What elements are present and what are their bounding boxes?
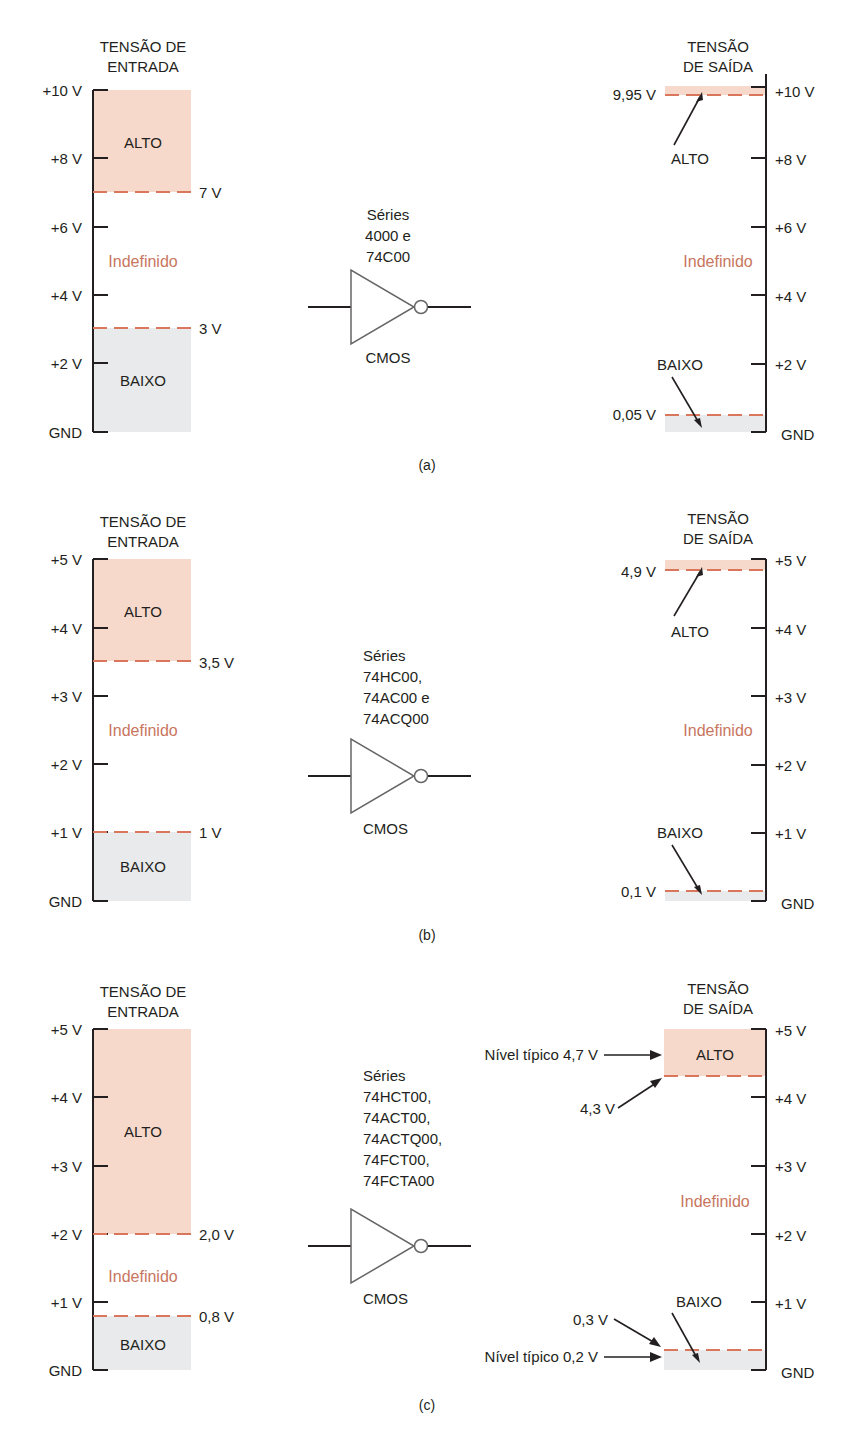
tick-label: +2 V: [51, 1226, 82, 1243]
tick-label: +1 V: [51, 1294, 82, 1311]
cmos-inverter: Séries 74HC00, 74AC00 e 74ACQ00 CMOS: [308, 647, 471, 837]
arrow-icon: [674, 97, 700, 145]
high-threshold-label: 3,5 V: [199, 654, 234, 671]
tick-label: +4 V: [775, 621, 806, 638]
gate-type-label: CMOS: [366, 349, 411, 366]
low-threshold-label: 0,05 V: [613, 406, 656, 423]
output-title-line2: DE SAÍDA: [683, 530, 753, 547]
input-title-line1: TENSÃO DE: [100, 513, 187, 530]
inversion-bubble-icon: [415, 770, 428, 783]
tick-label: +6 V: [51, 219, 82, 236]
tick-label: +2 V: [51, 756, 82, 773]
low-label: BAIXO: [120, 372, 166, 389]
high-label: ALTO: [124, 134, 162, 151]
high-label: ALTO: [671, 150, 709, 167]
inverter-triangle-icon: [351, 270, 414, 344]
tick-label: GND: [49, 424, 83, 441]
undefined-label: Indefinido: [108, 722, 177, 739]
tick-label: +1 V: [775, 825, 806, 842]
tick-label: +10 V: [775, 83, 815, 100]
low-threshold-label: 1 V: [199, 824, 222, 841]
tick-label: +4 V: [51, 287, 82, 304]
high-region: [665, 560, 766, 570]
input-title-line2: ENTRADA: [107, 1003, 179, 1020]
undefined-label: Indefinido: [108, 253, 177, 270]
undefined-label: Indefinido: [108, 1268, 177, 1285]
arrowhead-icon: [649, 1337, 661, 1347]
high-label: ALTO: [124, 603, 162, 620]
tick-label: +3 V: [775, 689, 806, 706]
series-label: Séries: [367, 206, 410, 223]
panel-b: TENSÃO DE ENTRADA +5 V +4 V +3 V +2 V +1…: [0, 480, 854, 950]
typical-high-label: Nível típico 4,7 V: [485, 1046, 598, 1063]
series-label: 74FCT00,: [363, 1151, 430, 1168]
tick-label: +5 V: [775, 552, 806, 569]
input-voltage-scale: TENSÃO DE ENTRADA +5 V +4 V +3 V +2 V +1…: [49, 983, 234, 1379]
input-voltage-scale: TENSÃO DE ENTRADA +10 V +8 V +6 V +4 V +…: [42, 38, 221, 441]
tick-label: +8 V: [51, 150, 82, 167]
panel-c: TENSÃO DE ENTRADA +5 V +4 V +3 V +2 V +1…: [0, 950, 854, 1439]
input-title-line2: ENTRADA: [107, 58, 179, 75]
low-label: BAIXO: [676, 1293, 722, 1310]
low-threshold-label: 0,1 V: [621, 883, 656, 900]
series-label: 74ACT00,: [363, 1109, 431, 1126]
high-region: [665, 86, 766, 95]
tick-label: +3 V: [775, 1158, 806, 1175]
tick-label: +2 V: [775, 1227, 806, 1244]
tick-label: +6 V: [775, 219, 806, 236]
low-label: BAIXO: [120, 1336, 166, 1353]
low-region: [664, 1350, 766, 1370]
series-label: 74HC00,: [363, 668, 422, 685]
output-voltage-scale: TENSÃO DE SAÍDA +10 V +8 V +6 V +4 V +2 …: [613, 38, 815, 443]
low-label: BAIXO: [657, 356, 703, 373]
output-title-line2: DE SAÍDA: [683, 58, 753, 75]
tick-label: GND: [781, 426, 815, 443]
series-label: Séries: [363, 1067, 406, 1084]
tick-label: +2 V: [775, 356, 806, 373]
undefined-label: Indefinido: [683, 722, 752, 739]
series-label: 74ACQ00: [363, 710, 429, 727]
series-label: 74FCTA00: [363, 1172, 434, 1189]
output-title-line1: TENSÃO: [687, 38, 749, 55]
high-threshold-label: 9,95 V: [613, 86, 656, 103]
arrow-icon: [618, 1083, 656, 1108]
tick-label: +5 V: [51, 551, 82, 568]
inversion-bubble-icon: [415, 301, 428, 314]
tick-label: +2 V: [775, 757, 806, 774]
tick-label: +4 V: [51, 620, 82, 637]
series-label: Séries: [363, 647, 406, 664]
cmos-inverter: Séries 74HCT00, 74ACT00, 74ACTQ00, 74FCT…: [308, 1067, 471, 1307]
figure-caption: (a): [418, 457, 435, 473]
tick-label: GND: [781, 1364, 815, 1381]
gate-type-label: CMOS: [363, 1290, 408, 1307]
low-threshold-label: 0,8 V: [199, 1308, 234, 1325]
tick-label: +4 V: [775, 288, 806, 305]
input-title-line2: ENTRADA: [107, 533, 179, 550]
arrow-icon: [614, 1319, 655, 1343]
high-threshold-label: 7 V: [199, 184, 222, 201]
low-threshold-label: 3 V: [199, 320, 222, 337]
inverter-triangle-icon: [351, 1209, 414, 1283]
tick-label: +3 V: [51, 688, 82, 705]
tick-label: GND: [49, 893, 83, 910]
high-threshold-label: 2,0 V: [199, 1226, 234, 1243]
figure-caption: (b): [418, 927, 435, 943]
typical-low-label: Nível típico 0,2 V: [485, 1348, 598, 1365]
undefined-label: Indefinido: [680, 1193, 749, 1210]
tick-label: +5 V: [775, 1022, 806, 1039]
series-label: 74C00: [366, 248, 410, 265]
tick-label: +1 V: [51, 824, 82, 841]
arrow-icon: [674, 572, 700, 616]
output-title-line1: TENSÃO: [687, 510, 749, 527]
panel-a: TENSÃO DE ENTRADA +10 V +8 V +6 V +4 V +…: [0, 0, 854, 480]
arrowhead-icon: [650, 1352, 662, 1362]
inversion-bubble-icon: [415, 1240, 428, 1253]
input-voltage-scale: TENSÃO DE ENTRADA +5 V +4 V +3 V +2 V +1…: [49, 513, 234, 910]
series-label: 74HCT00,: [363, 1088, 431, 1105]
inverter-triangle-icon: [351, 739, 414, 813]
cmos-inverter: Séries 4000 e 74C00 CMOS: [308, 206, 471, 366]
output-voltage-scale: TENSÃO DE SAÍDA +5 V +4 V +3 V +2 V +1 V…: [485, 980, 815, 1381]
tick-label: +5 V: [51, 1021, 82, 1038]
tick-label: +4 V: [775, 1090, 806, 1107]
tick-label: +2 V: [51, 355, 82, 372]
